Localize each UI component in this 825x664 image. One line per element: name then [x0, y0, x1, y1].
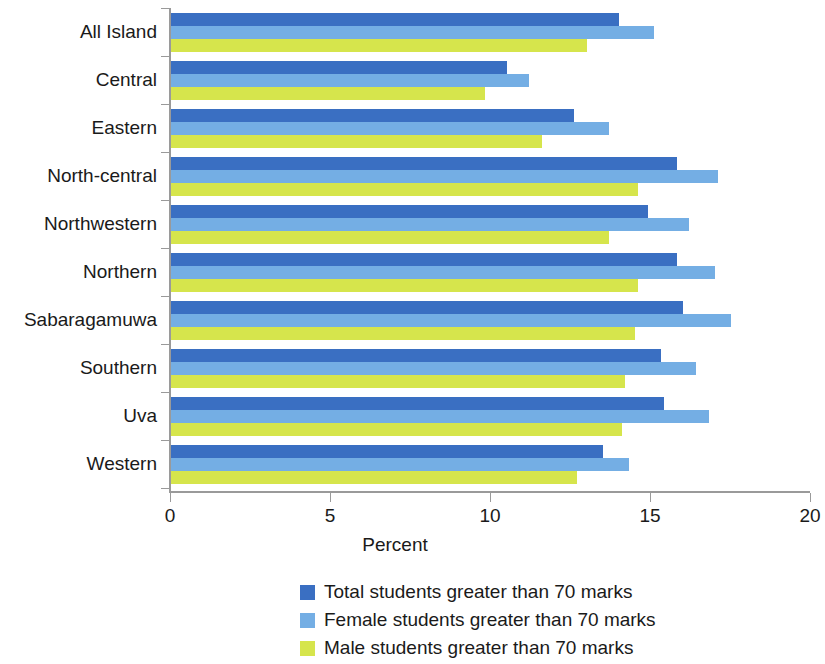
y-axis-category-label: Northern — [0, 260, 157, 284]
x-axis-tick — [650, 493, 651, 502]
bar-male — [171, 375, 625, 388]
y-axis-category-label: All Island — [0, 20, 157, 44]
bar-male — [171, 327, 635, 340]
bar-female — [171, 26, 654, 39]
legend-swatch-icon — [300, 613, 315, 628]
chart-category-row: Central — [0, 58, 816, 106]
y-axis-category-label: North-central — [0, 164, 157, 188]
bar-total — [171, 445, 603, 458]
legend-label: Total students greater than 70 marks — [324, 580, 632, 604]
y-axis-category-label: Southern — [0, 356, 157, 380]
chart-category-row: All Island — [0, 10, 816, 58]
bar-total — [171, 349, 661, 362]
chart-category-row: Western — [0, 442, 816, 490]
bar-total — [171, 61, 507, 74]
legend-item: Total students greater than 70 marks — [300, 578, 820, 606]
y-axis-tick — [161, 8, 170, 9]
chart-category-row: Northern — [0, 250, 816, 298]
bar-male — [171, 279, 638, 292]
chart-category-row: Northwestern — [0, 202, 816, 250]
legend-swatch-icon — [300, 585, 315, 600]
legend-item: Female students greater than 70 marks — [300, 606, 820, 634]
legend-label: Male students greater than 70 marks — [324, 636, 633, 660]
y-axis-category-label: Uva — [0, 404, 157, 428]
bar-male — [171, 471, 577, 484]
bar-female — [171, 362, 696, 375]
x-axis-tick — [490, 493, 491, 502]
bar-total — [171, 253, 677, 266]
x-axis-tick-label: 10 — [460, 505, 520, 527]
y-axis-category-label: Northwestern — [0, 212, 157, 236]
bar-female — [171, 410, 709, 423]
x-axis-tick-label: 0 — [140, 505, 200, 527]
bar-male — [171, 39, 587, 52]
bar-total — [171, 397, 664, 410]
y-axis-category-label: Eastern — [0, 116, 157, 140]
bar-female — [171, 458, 629, 471]
x-axis-tick — [330, 493, 331, 502]
chart-legend: Total students greater than 70 marksFema… — [300, 578, 820, 662]
bar-male — [171, 135, 542, 148]
chart-category-row: Uva — [0, 394, 816, 442]
x-axis-tick — [810, 493, 811, 502]
x-axis-tick-label: 15 — [620, 505, 680, 527]
bar-male — [171, 423, 622, 436]
chart-category-row: Sabaragamuwa — [0, 298, 816, 346]
bar-female — [171, 314, 731, 327]
bar-total — [171, 109, 574, 122]
bar-male — [171, 183, 638, 196]
y-axis-category-label: Sabaragamuwa — [0, 308, 157, 332]
bar-total — [171, 157, 677, 170]
bar-male — [171, 87, 485, 100]
legend-item: Male students greater than 70 marks — [300, 634, 820, 662]
bar-female — [171, 266, 715, 279]
bar-female — [171, 218, 689, 231]
bar-female — [171, 74, 529, 87]
y-axis-category-label: Western — [0, 452, 157, 476]
bar-total — [171, 301, 683, 314]
chart-category-row: Eastern — [0, 106, 816, 154]
bar-male — [171, 231, 609, 244]
bar-total — [171, 205, 648, 218]
x-axis-tick — [170, 493, 171, 502]
x-axis-tick-label: 5 — [300, 505, 360, 527]
bar-total — [171, 13, 619, 26]
legend-label: Female students greater than 70 marks — [324, 608, 656, 632]
x-axis-title-text: Percent — [362, 534, 427, 556]
bar-female — [171, 122, 609, 135]
x-axis-tick-label: 20 — [780, 505, 825, 527]
chart-category-row: North-central — [0, 154, 816, 202]
bar-female — [171, 170, 718, 183]
legend-swatch-icon — [300, 641, 315, 656]
x-axis-title: Percent — [0, 534, 816, 556]
y-axis-category-label: Central — [0, 68, 157, 92]
chart-category-row: Southern — [0, 346, 816, 394]
